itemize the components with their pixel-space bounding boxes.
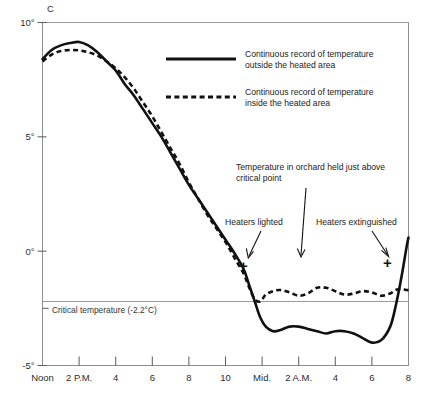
y-axis-unit-label: C [47,3,54,14]
marker-heaters-extinguished: + [383,254,392,271]
legend-entry-0-line-1: Continuous record of temperature [245,49,374,59]
y-tick-label--5: -5° [22,360,34,371]
x-tick-label-4: 8 [186,372,191,383]
x-tick-label-5: 10 [220,372,231,383]
annotation-heaters-lighted-label: Heaters lighted [225,217,283,227]
x-tick-label-10: 8 [406,372,411,383]
annotation-orchard-line-2: critical point [236,173,282,183]
x-tick-label-8: 4 [333,372,338,383]
legend-entry-1-line-2: inside the heated area [245,98,330,108]
chart-svg: Critical temperature (-2.2°C) C 10°5°0°-… [0,0,423,398]
x-tick-label-7: 2 A.M. [285,372,312,383]
x-tick-label-9: 6 [369,372,374,383]
y-tick-label-5: 5° [25,131,34,142]
annotation-heaters-extinguished-label: Heaters extinguished [316,217,397,227]
x-tick-label-1: 2 P.M. [66,372,92,383]
x-tick-label-2: 4 [113,372,118,383]
temperature-chart: Critical temperature (-2.2°C) C 10°5°0°-… [0,0,423,398]
annotation-orchard-line-1: Temperature in orchard held just above [236,162,385,172]
x-tick-label-6: Mid. [253,372,271,383]
y-tick-label-10: 10° [20,17,35,28]
y-tick-label-0: 0° [25,246,34,257]
critical-temperature-label: Critical temperature (-2.2°C) [52,305,157,315]
marker-heaters-lighted: + [239,257,248,274]
legend-entry-0-line-2: outside the heated area [245,60,336,70]
legend-entry-1-line-1: Continuous record of temperature [245,87,374,97]
x-tick-label-0: Noon [31,372,54,383]
x-tick-label-3: 6 [150,372,155,383]
